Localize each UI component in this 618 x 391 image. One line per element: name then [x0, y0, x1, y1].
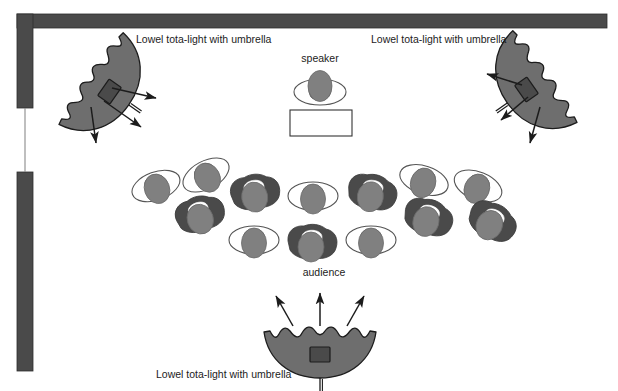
- wall-left-lower: [17, 172, 33, 371]
- diagram-canvas: Lowel tota-light with umbrella Lowel tot…: [0, 0, 618, 391]
- audience-seat[interactable]: [171, 190, 229, 241]
- audience-seat[interactable]: [177, 151, 236, 203]
- audience-seat[interactable]: [400, 193, 458, 243]
- audience-seat[interactable]: [128, 164, 186, 211]
- speaker-label: speaker: [301, 52, 339, 64]
- light-bottom[interactable]: Lowel tota-light with umbrella: [156, 293, 376, 391]
- audience-seat[interactable]: [229, 226, 279, 258]
- light-bottom-label: Lowel tota-light with umbrella: [156, 368, 292, 380]
- wall-left-upper: [17, 14, 33, 108]
- speaker-figure[interactable]: [294, 71, 346, 106]
- audience-seat[interactable]: [345, 170, 400, 216]
- audience-seat[interactable]: [288, 224, 337, 262]
- lighting-setup-diagram: Lowel tota-light with umbrella Lowel tot…: [0, 0, 618, 391]
- audience-label: audience: [303, 266, 346, 278]
- wall-top: [17, 14, 607, 28]
- light-top-right[interactable]: Lowel tota-light with umbrella: [371, 28, 581, 157]
- light-top-left[interactable]: Lowel tota-light with umbrella: [55, 30, 272, 159]
- audience-seat[interactable]: [346, 226, 396, 258]
- audience-seat[interactable]: [395, 159, 452, 205]
- light-bottom-beams: [276, 293, 364, 326]
- light-top-right-label: Lowel tota-light with umbrella: [371, 33, 507, 45]
- audience-group: audience: [128, 151, 523, 278]
- audience-seat[interactable]: [228, 170, 283, 216]
- speaker-table[interactable]: [290, 110, 352, 136]
- audience-seat[interactable]: [288, 182, 338, 214]
- light-top-left-label: Lowel tota-light with umbrella: [136, 33, 272, 45]
- speaker-area: speaker: [290, 52, 352, 136]
